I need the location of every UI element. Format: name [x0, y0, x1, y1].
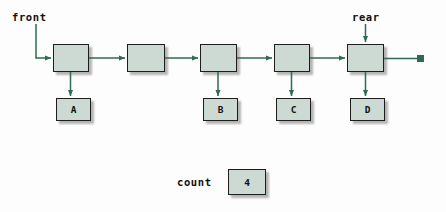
node-box-2[interactable]	[127, 44, 165, 72]
data-box-a[interactable]: A	[56, 98, 91, 121]
rear-pointer-label: rear	[352, 11, 380, 23]
count-value: 4	[244, 177, 250, 188]
data-box-a-label: A	[71, 104, 77, 115]
front-pointer-connector	[36, 24, 51, 58]
node-box-3[interactable]	[200, 44, 237, 72]
node-box-5[interactable]	[347, 44, 384, 72]
data-box-c-label: C	[291, 104, 297, 115]
count-value-box[interactable]: 4	[228, 169, 266, 195]
node-box-4[interactable]	[274, 44, 310, 72]
null-terminator-icon	[417, 55, 424, 62]
count-label: count	[177, 176, 212, 188]
data-box-b-label: B	[218, 104, 224, 115]
data-box-b[interactable]: B	[203, 98, 238, 121]
diagram-canvas: front rear A B C D count 4	[0, 0, 446, 212]
front-pointer-label: front	[12, 11, 47, 23]
data-box-c[interactable]: C	[276, 98, 311, 121]
data-box-d-label: D	[365, 104, 371, 115]
node-box-1[interactable]	[53, 44, 89, 72]
data-box-d[interactable]: D	[350, 98, 385, 121]
